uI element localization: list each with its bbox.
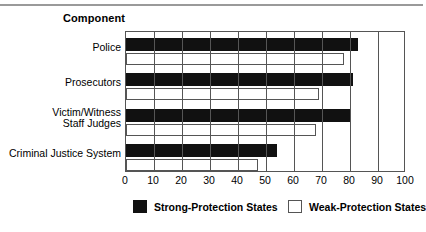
x-tick-60: 60 <box>287 174 299 186</box>
legend-label-1: Weak-Protection States <box>309 201 426 213</box>
category-axis-labels: PoliceProsecutorsVictim/Witness Staff Ju… <box>0 31 121 172</box>
x-tick-50: 50 <box>259 174 271 186</box>
x-tick-90: 90 <box>371 174 383 186</box>
x-tick-30: 30 <box>203 174 215 186</box>
gridline-60 <box>294 32 295 171</box>
bar-strong-0 <box>126 38 358 51</box>
bar-strong-1 <box>126 73 353 86</box>
gridline-50 <box>266 32 267 171</box>
category-label-1: Prosecutors <box>1 77 121 89</box>
legend-label-0: Strong-Protection States <box>154 201 278 213</box>
top-divider <box>0 4 423 6</box>
x-axis-tick-labels: 0102030405060708090100 <box>125 174 405 190</box>
legend-swatch-white <box>288 200 302 213</box>
gridline-10 <box>154 32 155 171</box>
gridline-20 <box>182 32 183 171</box>
legend-item-0[interactable]: Strong-Protection States <box>133 200 278 213</box>
gridline-40 <box>238 32 239 171</box>
legend-item-1[interactable]: Weak-Protection States <box>288 200 426 213</box>
x-tick-10: 10 <box>147 174 159 186</box>
category-label-3: Criminal Justice System <box>1 148 121 160</box>
x-tick-20: 20 <box>175 174 187 186</box>
x-tick-40: 40 <box>231 174 243 186</box>
plot-area <box>125 31 405 172</box>
gridline-30 <box>210 32 211 171</box>
x-tick-100: 100 <box>396 174 414 186</box>
gridline-80 <box>350 32 351 171</box>
bar-weak-0 <box>126 53 344 65</box>
axis-title-component: Component <box>63 12 125 24</box>
x-tick-70: 70 <box>315 174 327 186</box>
legend-swatch-black <box>133 200 147 213</box>
x-tick-80: 80 <box>343 174 355 186</box>
bar-rows <box>126 32 404 171</box>
gridline-70 <box>322 32 323 171</box>
chart-legend: Strong-Protection StatesWeak-Protection … <box>0 200 423 222</box>
category-label-2: Victim/Witness Staff Judges <box>1 107 121 130</box>
bar-strong-3 <box>126 144 277 157</box>
x-tick-0: 0 <box>122 174 128 186</box>
category-label-0: Police <box>1 42 121 54</box>
gridline-90 <box>378 32 379 171</box>
